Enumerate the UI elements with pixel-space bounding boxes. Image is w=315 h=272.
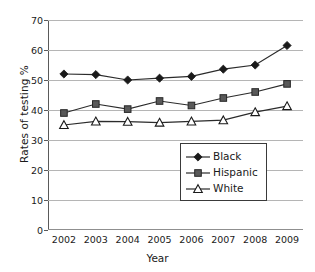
y-tick-label: 30: [31, 135, 43, 146]
data-point: [60, 70, 68, 78]
y-axis-title: Rates of testing %: [18, 34, 30, 194]
data-point: [284, 81, 291, 88]
data-point: [283, 41, 291, 49]
y-tick-label: 10: [31, 195, 43, 206]
series-black: [60, 41, 291, 84]
legend-marker-filled-square-icon: [185, 165, 211, 179]
data-point: [92, 71, 100, 79]
data-point: [124, 106, 131, 113]
legend-item: Hispanic: [185, 164, 258, 180]
x-tick-label: 2006: [179, 234, 203, 245]
legend-marker-open-triangle-icon: [185, 181, 211, 195]
legend-label: Hispanic: [211, 166, 258, 178]
legend-label: Black: [211, 150, 241, 162]
legend-item: Black: [185, 148, 258, 164]
data-point: [219, 65, 227, 73]
legend-item: White: [185, 180, 258, 196]
data-point: [220, 95, 227, 102]
data-point: [188, 102, 195, 109]
y-tick-label: 40: [31, 105, 43, 116]
y-tick-label: 20: [31, 165, 43, 176]
chart-legend: BlackHispanicWhite: [180, 143, 267, 201]
x-axis-title: Year: [0, 252, 315, 264]
x-tick-label: 2008: [243, 234, 267, 245]
y-tick-label: 60: [31, 45, 43, 56]
data-point: [124, 76, 132, 84]
data-point: [283, 102, 292, 110]
x-tick-label: 2003: [84, 234, 108, 245]
chart-figure: Rates of testing % Year 010203040506070 …: [0, 0, 315, 272]
data-point: [252, 89, 259, 96]
y-tick-label: 50: [31, 75, 43, 86]
y-tick-label: 0: [37, 225, 43, 236]
data-point: [187, 72, 195, 80]
data-point: [93, 101, 100, 108]
y-tick-mark: [44, 230, 48, 231]
x-tick-label: 2009: [275, 234, 299, 245]
data-point: [251, 61, 259, 69]
legend-marker-filled-diamond-icon: [185, 149, 211, 163]
y-tick-label: 70: [31, 15, 43, 26]
x-tick-label: 2004: [116, 234, 140, 245]
legend-label: White: [211, 182, 244, 194]
x-tick-label: 2007: [211, 234, 235, 245]
x-tick-label: 2002: [52, 234, 76, 245]
data-point: [156, 98, 163, 105]
data-point: [61, 110, 68, 117]
data-point: [155, 74, 163, 82]
x-tick-label: 2005: [147, 234, 171, 245]
